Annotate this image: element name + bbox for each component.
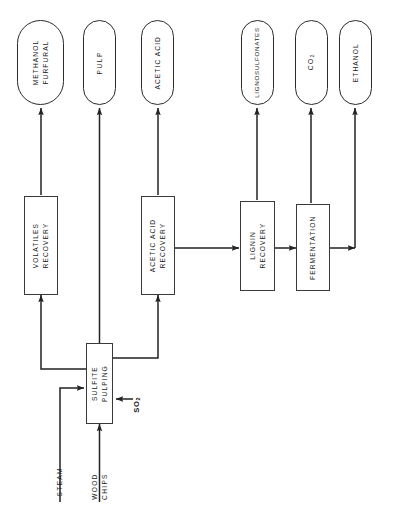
process-volatiles-recovery[interactable]: VOLATILES RECOVERY: [24, 196, 58, 295]
process-sulfite-pulping[interactable]: SULFITE PULPING: [86, 343, 113, 424]
product-methanol-furfural[interactable]: METHANOL FURFURAL: [17, 20, 64, 105]
process-acetic-acid-recovery[interactable]: ACETIC ACID RECOVERY: [141, 196, 175, 295]
product-pulp[interactable]: PULP: [83, 20, 116, 105]
process-label: ACETIC ACID RECOVERY: [148, 219, 167, 273]
feed-label-so2: SO2: [131, 390, 143, 420]
product-acetic-acid[interactable]: ACETIC ACID: [141, 20, 174, 105]
process-fermentation[interactable]: FERMENTATION: [296, 204, 330, 291]
feed-label-wood-chips: WOOD CHIPS: [90, 464, 109, 510]
product-co2[interactable]: CO2: [295, 20, 328, 105]
product-label: CO2: [306, 55, 317, 71]
product-label: LIGNOSULFONATES: [253, 27, 262, 98]
process-label: LIGNIN RECOVERY: [248, 223, 267, 269]
product-lignosulfonates[interactable]: LIGNOSULFONATES: [241, 20, 274, 105]
product-ethanol[interactable]: ETHANOL: [339, 20, 372, 105]
product-label: PULP: [95, 51, 105, 75]
product-label: ETHANOL: [351, 43, 361, 82]
feed-label-steam: STEAM: [55, 459, 65, 505]
product-label: METHANOL FURFURAL: [31, 40, 50, 85]
process-label: FERMENTATION: [308, 215, 318, 279]
process-label: VOLATILES RECOVERY: [31, 223, 50, 269]
process-label: SULFITE PULPING: [90, 365, 109, 402]
product-label: ACETIC ACID: [153, 36, 163, 90]
process-lignin-recovery[interactable]: LIGNIN RECOVERY: [240, 201, 275, 291]
